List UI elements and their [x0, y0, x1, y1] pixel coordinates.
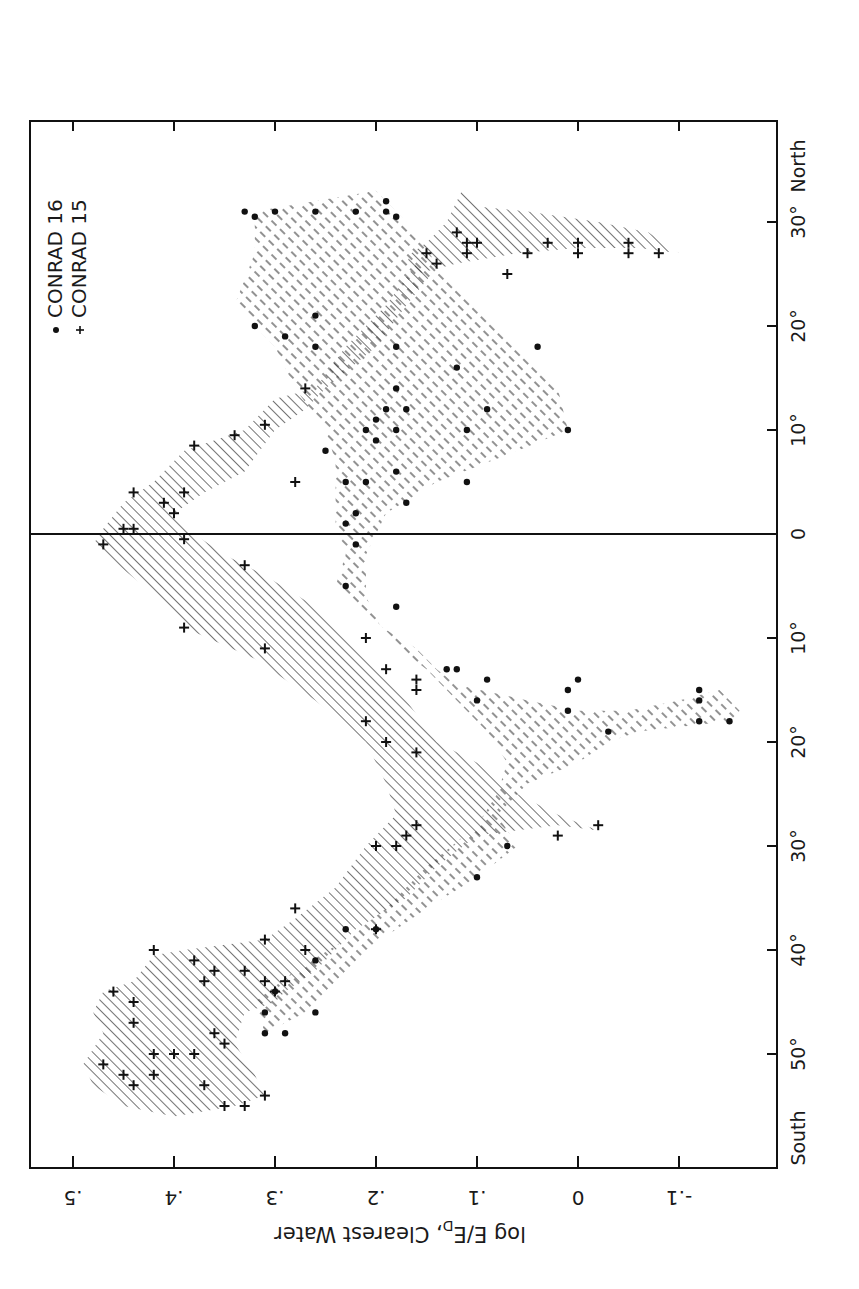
dot-marker: [464, 479, 470, 485]
dot-marker: [373, 416, 379, 422]
value-tick-label: .1: [467, 1186, 486, 1210]
lat-tick-label: 30°: [787, 205, 809, 239]
lat-tick-label: 20°: [787, 725, 809, 759]
legend: CONRAD 16CONRAD 15: [43, 199, 91, 334]
dot-marker: [312, 1009, 318, 1015]
dot-marker: [696, 697, 702, 703]
plus-marker: [411, 675, 421, 685]
dot-marker: [262, 1030, 268, 1036]
dot-marker: [353, 208, 359, 214]
dot-marker: [484, 676, 490, 682]
dot-marker: [726, 718, 732, 724]
dot-marker: [383, 198, 389, 204]
dot-marker: [393, 385, 399, 391]
dot-marker: [363, 427, 369, 433]
dot-marker: [312, 957, 318, 963]
dot-marker: [484, 406, 490, 412]
shaded-regions: [83, 191, 740, 1117]
dot-marker: [252, 214, 258, 220]
dot-marker: [242, 208, 248, 214]
dot-marker: [696, 687, 702, 693]
south-label: South: [787, 1110, 809, 1165]
legend-label: CONRAD 15: [67, 199, 91, 318]
dot-marker: [373, 437, 379, 443]
dot-marker: [534, 344, 540, 350]
dot-marker: [403, 406, 409, 412]
plus-marker: [290, 903, 300, 913]
plus-marker: [502, 269, 512, 279]
dot-marker: [504, 843, 510, 849]
dot-marker: [272, 208, 278, 214]
dot-marker: [383, 406, 389, 412]
dot-marker: [393, 214, 399, 220]
value-tick-label: .5: [63, 1186, 82, 1210]
value-tick-label: 0: [572, 1186, 585, 1210]
plus-marker: [573, 248, 583, 258]
dot-marker: [343, 479, 349, 485]
lat-tick-label: 30°: [787, 829, 809, 863]
dot-marker: [696, 718, 702, 724]
value-tick-label: .3: [265, 1186, 284, 1210]
dot-marker: [474, 697, 480, 703]
legend-entry: CONRAD 16: [43, 199, 67, 333]
dot-marker: [363, 479, 369, 485]
dot-marker: [565, 687, 571, 693]
dot-marker: [353, 541, 359, 547]
dot-marker: [605, 728, 611, 734]
legend-entry: CONRAD 15: [67, 199, 91, 334]
dot-marker: [393, 468, 399, 474]
dot-marker: [575, 676, 581, 682]
plus-marker: [411, 685, 421, 695]
dot-marker: [312, 312, 318, 318]
dot-marker: [312, 344, 318, 350]
dot-marker: [282, 1030, 288, 1036]
plus-marker: [290, 477, 300, 487]
dot-marker: [454, 364, 460, 370]
value-tick-label: .4: [164, 1186, 183, 1210]
dot-marker: [343, 926, 349, 932]
dot-marker: [282, 333, 288, 339]
dot-marker: [262, 1009, 268, 1015]
north-label: North: [787, 139, 809, 192]
dot-marker: [343, 520, 349, 526]
dot-marker: [464, 427, 470, 433]
lat-tick-label: 20°: [787, 309, 809, 343]
lat-tick-label: 10°: [787, 413, 809, 447]
dot-marker: [393, 344, 399, 350]
dot-marker: [343, 583, 349, 589]
shaded-region: [406, 191, 679, 274]
dot-marker: [565, 427, 571, 433]
plus-marker: [553, 831, 563, 841]
plus-marker: [149, 945, 159, 955]
lat-tick-label: 40°: [787, 933, 809, 967]
plus-marker: [381, 664, 391, 674]
lat-tick-label: 0: [787, 528, 809, 540]
dot-marker: [474, 874, 480, 880]
dot-marker: [393, 427, 399, 433]
dot-marker: [403, 500, 409, 506]
dot-marker: [312, 208, 318, 214]
value-tick-label: .2: [366, 1186, 385, 1210]
axis-title: log E/ED, Clearest Water: [274, 1218, 526, 1246]
dot-marker: [353, 510, 359, 516]
legend-label: CONRAD 16: [43, 199, 67, 318]
lat-tick-label: 10°: [787, 621, 809, 655]
dot-marker: [454, 666, 460, 672]
value-tick-label: -.1: [666, 1186, 692, 1210]
dot-marker: [322, 448, 328, 454]
chart: 30°20°10°010°20°30°40°50°NorthSouth.5.4.…: [0, 0, 859, 1289]
dot-marker: [393, 604, 399, 610]
dot-marker: [252, 323, 258, 329]
dot-marker: [444, 666, 450, 672]
plus-marker: [624, 248, 634, 258]
dot-marker: [565, 708, 571, 714]
dot-marker: [383, 208, 389, 214]
dot-icon: [53, 327, 59, 333]
plus-marker: [593, 820, 603, 830]
plus-marker: [361, 633, 371, 643]
lat-tick-label: 50°: [787, 1037, 809, 1071]
